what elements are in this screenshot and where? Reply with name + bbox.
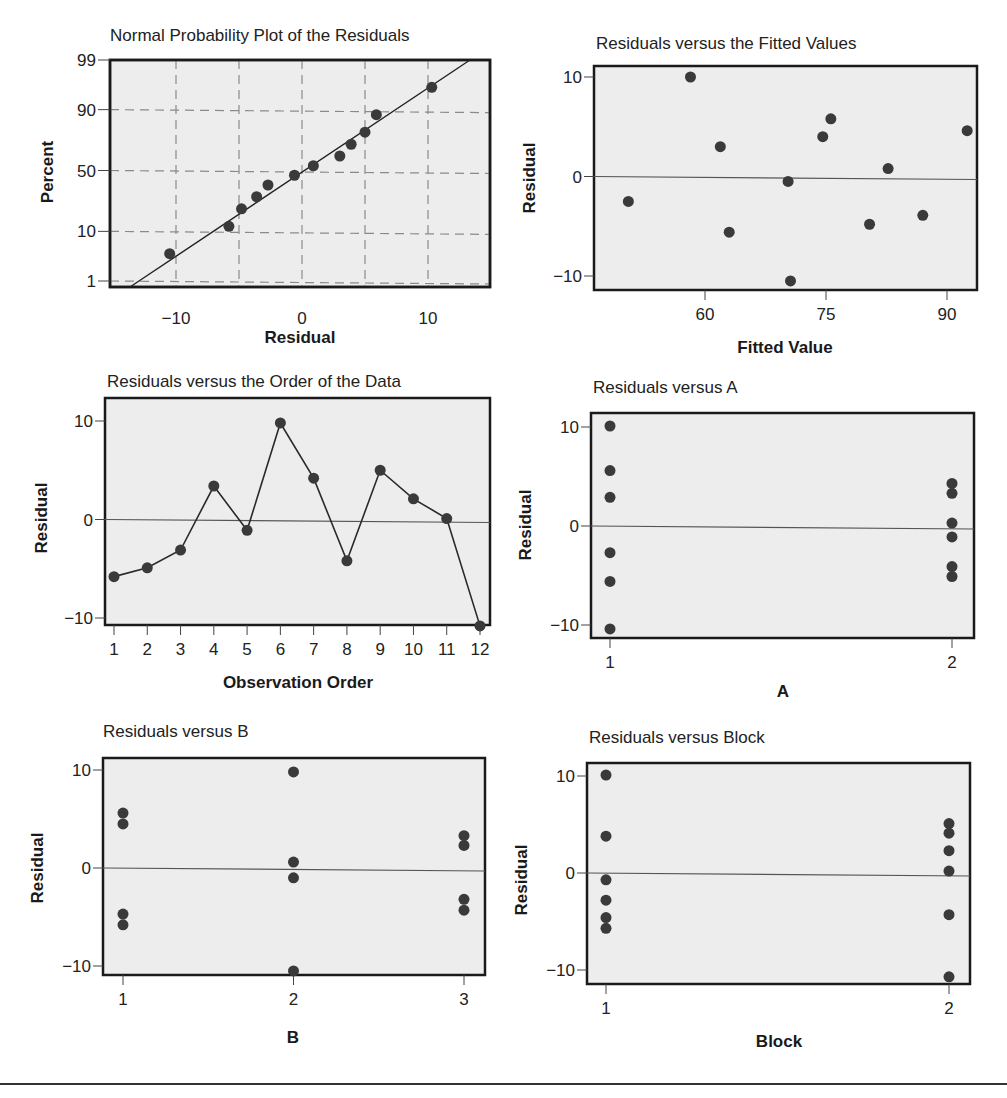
data-point — [783, 176, 794, 187]
data-point — [944, 828, 955, 839]
tick-label: 2 — [289, 990, 298, 1009]
data-point — [371, 109, 382, 120]
vs-b-plot — [93, 758, 485, 985]
data-point — [118, 818, 129, 829]
data-point — [118, 919, 129, 930]
data-point — [175, 545, 186, 556]
data-point — [459, 905, 470, 916]
data-point — [601, 831, 612, 842]
tick-label: 5 — [242, 640, 251, 659]
tick-label: 4 — [209, 640, 218, 659]
tick-label: 11 — [438, 640, 456, 659]
data-point — [947, 531, 958, 542]
data-point — [947, 518, 958, 529]
data-point — [426, 82, 437, 93]
data-point — [601, 912, 612, 923]
data-point — [360, 127, 371, 138]
data-point — [947, 561, 958, 572]
data-point — [947, 478, 958, 489]
data-point — [118, 909, 129, 920]
normal-probability-plot — [98, 60, 490, 287]
data-point — [601, 770, 612, 781]
tick-label: 8 — [342, 640, 351, 659]
data-point — [947, 571, 958, 582]
data-point — [724, 227, 735, 238]
divider — [0, 1083, 1007, 1085]
tick-label: 99 — [77, 51, 96, 70]
data-point — [242, 525, 253, 536]
observation-order-plot — [95, 398, 490, 635]
tick-label: 10 — [556, 767, 575, 786]
vs-block-plot — [577, 763, 970, 994]
tick-label: 12 — [471, 640, 490, 659]
data-point — [601, 874, 612, 885]
data-point — [441, 513, 452, 524]
tick-label: 2 — [947, 653, 956, 672]
data-point — [308, 160, 319, 171]
data-point — [685, 72, 696, 83]
data-point — [262, 179, 273, 190]
data-point — [223, 221, 234, 232]
data-point — [459, 830, 470, 841]
tick-label: 6 — [276, 640, 285, 659]
data-point — [605, 465, 616, 476]
tick-label: −10 — [64, 609, 93, 628]
tick-label: 9 — [375, 640, 384, 659]
data-point — [883, 163, 894, 174]
data-point — [275, 417, 286, 428]
tick-label: 90 — [938, 305, 957, 324]
data-point — [601, 895, 612, 906]
tick-label: 10 — [77, 222, 96, 241]
data-point — [947, 488, 958, 499]
tick-label: −10 — [162, 309, 191, 328]
tick-label: 1 — [118, 990, 127, 1009]
tick-label: 10 — [72, 761, 91, 780]
data-point — [236, 203, 247, 214]
tick-label: 3 — [459, 990, 468, 1009]
tick-label: 0 — [570, 517, 579, 536]
tick-label: 1 — [87, 272, 96, 291]
data-point — [605, 547, 616, 558]
data-point — [346, 139, 357, 150]
data-point — [825, 113, 836, 124]
data-point — [459, 840, 470, 851]
tick-label: 1 — [109, 640, 118, 659]
data-point — [864, 219, 875, 230]
tick-label: 10 — [419, 309, 438, 328]
tick-label: 90 — [77, 101, 96, 120]
data-point — [142, 562, 153, 573]
data-point — [785, 275, 796, 286]
data-point — [944, 845, 955, 856]
tick-label: −10 — [553, 267, 582, 286]
data-point — [308, 473, 319, 484]
data-point — [817, 131, 828, 142]
data-point — [605, 492, 616, 503]
tick-label: 0 — [297, 309, 306, 328]
data-point — [208, 481, 219, 492]
data-point — [475, 620, 486, 631]
tick-label: −10 — [546, 961, 575, 980]
tick-label: 10 — [404, 640, 423, 659]
data-point — [288, 857, 299, 868]
tick-label: 60 — [696, 305, 715, 324]
data-point — [164, 248, 175, 259]
data-point — [375, 465, 386, 476]
data-point — [944, 909, 955, 920]
data-point — [715, 141, 726, 152]
tick-label: 10 — [74, 412, 93, 431]
plots-canvas: 110509099−10010−10010607590−100101234567… — [0, 0, 1007, 1098]
tick-label: 2 — [143, 640, 152, 659]
data-point — [289, 170, 300, 181]
tick-label: 1 — [605, 653, 614, 672]
data-point — [944, 866, 955, 877]
tick-label: 10 — [563, 68, 582, 87]
fitted-values-plot — [584, 66, 977, 300]
data-point — [605, 576, 616, 587]
data-point — [944, 971, 955, 982]
data-point — [408, 493, 419, 504]
data-point — [605, 623, 616, 634]
tick-label: −10 — [550, 616, 579, 635]
data-point — [251, 191, 262, 202]
data-point — [109, 571, 120, 582]
tick-label: 0 — [566, 864, 575, 883]
